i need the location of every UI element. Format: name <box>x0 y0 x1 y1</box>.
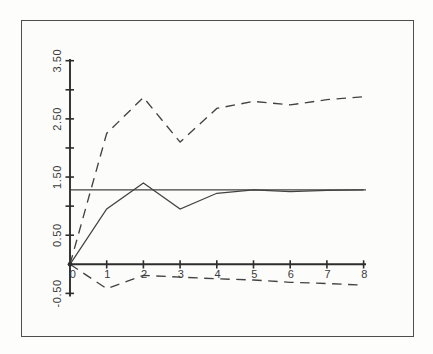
x-tick-label: 5 <box>251 268 258 280</box>
x-tick-label: 0 <box>70 268 77 280</box>
origin-point <box>68 262 73 267</box>
x-tick-label: 8 <box>361 268 368 280</box>
y-tick-label: 0.50 <box>51 223 63 247</box>
scanned-figure-page: 3.502.501.500.50-0.50012345678 <box>0 0 433 354</box>
y-tick-label: 2.50 <box>51 107 63 131</box>
impulse-response-chart: 3.502.501.500.50-0.50012345678 <box>0 0 433 354</box>
x-tick-label: 7 <box>325 268 332 280</box>
y-tick-label: -0.50 <box>51 279 63 307</box>
x-tick-label: 1 <box>104 268 111 280</box>
series-line-upper-dashed-band <box>70 97 364 264</box>
y-tick-label: 1.50 <box>51 165 63 189</box>
x-tick-label: 6 <box>288 268 295 280</box>
x-tick-label: 2 <box>141 268 148 280</box>
x-tick-label: 4 <box>214 268 221 280</box>
series-line-solid-response <box>70 183 364 264</box>
y-tick-label: 3.50 <box>51 49 63 73</box>
